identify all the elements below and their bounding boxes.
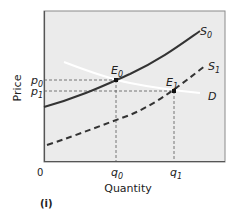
x-tick-q1: q1 [170,166,182,181]
y-axis-label: Price [11,74,24,101]
x-tick-q0: q0 [111,166,123,181]
origin-label: 0 [37,167,43,178]
panel-label: (i) [40,198,53,209]
supply-demand-diagram: S0 S1 D E0 E1 p0 p1 Price 0 q0 q1 Quanti… [0,0,237,215]
label-d: D [208,90,216,103]
x-axis-label: Quantity [104,182,152,195]
